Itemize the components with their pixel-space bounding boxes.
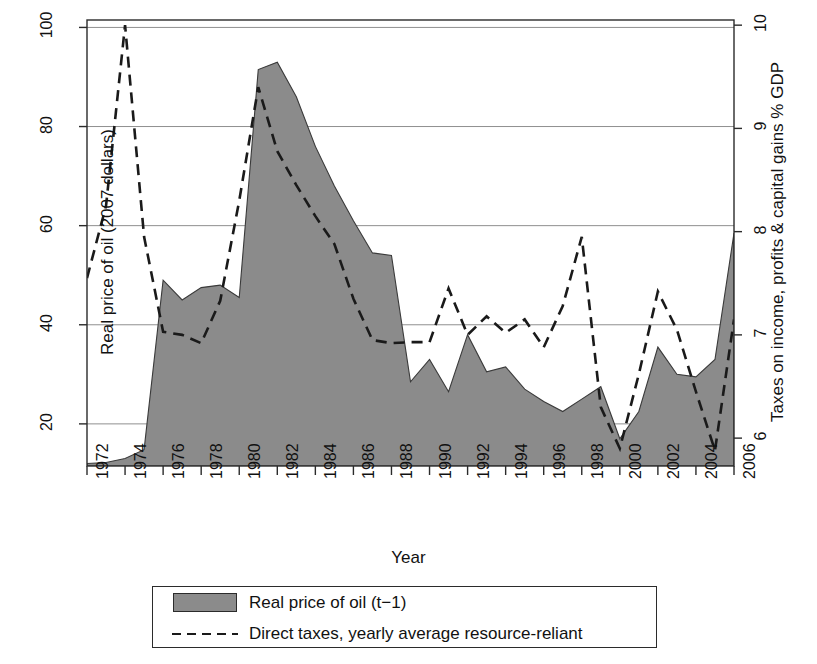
area-path-real-price-of-oil bbox=[87, 62, 734, 466]
x-tick-label-2004: 2004 bbox=[703, 443, 721, 479]
x-tick-label-1996: 1996 bbox=[551, 443, 569, 479]
x-tick-label-1998: 1998 bbox=[589, 443, 607, 479]
legend-item-direct-taxes: Direct taxes, yearly average resource-re… bbox=[153, 618, 656, 649]
x-tick-label-1976: 1976 bbox=[170, 443, 188, 479]
x-tick-label-1980: 1980 bbox=[246, 443, 264, 479]
x-tick-label-1990: 1990 bbox=[437, 443, 455, 479]
legend-label-real-price-of-oil: Real price of oil (t−1) bbox=[249, 593, 406, 613]
x-axis-title: Year bbox=[0, 548, 817, 568]
x-tick-label-2006: 2006 bbox=[741, 443, 759, 479]
y-axis-left-ticks bbox=[79, 27, 87, 423]
series-area-real-price-of-oil bbox=[87, 62, 734, 466]
y-axis-left-title: Real price of oil (2007 dollars) bbox=[98, 22, 118, 462]
chart-figure: 20406080100 678910 197219741976197819801… bbox=[0, 0, 817, 664]
legend-label-direct-taxes: Direct taxes, yearly average resource-re… bbox=[249, 624, 583, 644]
x-tick-label-1978: 1978 bbox=[208, 443, 226, 479]
legend-dashed-line-icon bbox=[167, 628, 243, 640]
y-tick-label-left-40: 40 bbox=[38, 301, 56, 345]
y-axis-right-title: Taxes on income, profits & capital gains… bbox=[768, 22, 788, 462]
x-tick-label-1984: 1984 bbox=[322, 443, 340, 479]
y-axis-right-ticks bbox=[734, 25, 742, 438]
x-tick-label-2000: 2000 bbox=[627, 443, 645, 479]
chart-legend: Real price of oil (t−1) Direct taxes, ye… bbox=[152, 586, 657, 648]
x-tick-label-1982: 1982 bbox=[284, 443, 302, 479]
y-tick-label-left-80: 80 bbox=[38, 103, 56, 147]
x-tick-label-1974: 1974 bbox=[132, 443, 150, 479]
x-tick-label-1988: 1988 bbox=[398, 443, 416, 479]
legend-area-swatch-icon bbox=[167, 593, 243, 612]
x-tick-label-1986: 1986 bbox=[360, 443, 378, 479]
x-tick-label-1994: 1994 bbox=[513, 443, 531, 479]
y-tick-label-left-60: 60 bbox=[38, 202, 56, 246]
x-tick-label-1992: 1992 bbox=[475, 443, 493, 479]
y-tick-label-left-100: 100 bbox=[38, 3, 56, 47]
legend-item-real-price-of-oil: Real price of oil (t−1) bbox=[153, 587, 656, 618]
y-tick-label-left-20: 20 bbox=[38, 400, 56, 444]
x-tick-label-2002: 2002 bbox=[665, 443, 683, 479]
